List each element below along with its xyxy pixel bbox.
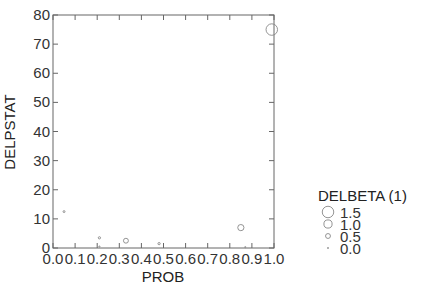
- y-tick-label: 20: [33, 181, 50, 198]
- data-point: [266, 24, 278, 36]
- data-point: [238, 225, 244, 231]
- y-tick-label: 0: [42, 239, 50, 256]
- x-tick-label: 0.4: [131, 250, 152, 267]
- legend-marker: [322, 206, 334, 218]
- x-axis-title: PROB: [142, 268, 185, 285]
- legend: DELBETA (1) 1.5 1.0 0.5 0.0: [318, 187, 407, 257]
- y-tick-label: 40: [33, 123, 50, 140]
- x-tick-label: 0.8: [219, 250, 240, 267]
- x-tick-label: 0.9: [241, 250, 262, 267]
- scatter-chart: 0.00.10.20.30.40.50.60.70.80.91.00102030…: [0, 0, 426, 292]
- data-point: [123, 238, 128, 243]
- y-tick-label: 50: [33, 93, 50, 110]
- data-point: [158, 243, 160, 245]
- x-tick-label: 0.3: [109, 250, 130, 267]
- x-tick-label: 0.2: [87, 250, 108, 267]
- y-tick-label: 80: [33, 6, 50, 23]
- x-tick-label: 1.0: [264, 250, 285, 267]
- legend-label-0-0: 0.0: [340, 240, 361, 257]
- data-point: [245, 247, 246, 248]
- data-point: [63, 211, 65, 213]
- y-axis-title: DELPSTAT: [1, 94, 18, 169]
- data-point: [99, 246, 100, 247]
- plot-area: 0.00.10.20.30.40.50.60.70.80.91.00102030…: [33, 6, 284, 267]
- x-tick-label: 0.7: [197, 250, 218, 267]
- x-tick-label: 0.1: [65, 250, 86, 267]
- y-tick-label: 30: [33, 152, 50, 169]
- legend-title: DELBETA (1): [318, 187, 407, 204]
- legend-marker: [327, 247, 328, 248]
- y-tick-label: 60: [33, 64, 50, 81]
- legend-marker: [324, 220, 332, 228]
- x-tick-label: 0.5: [153, 250, 174, 267]
- plot-frame: [53, 15, 274, 248]
- legend-marker: [326, 234, 331, 239]
- data-point: [98, 237, 100, 239]
- x-tick-label: 0.6: [175, 250, 196, 267]
- y-tick-label: 70: [33, 35, 50, 52]
- y-tick-label: 10: [33, 210, 50, 227]
